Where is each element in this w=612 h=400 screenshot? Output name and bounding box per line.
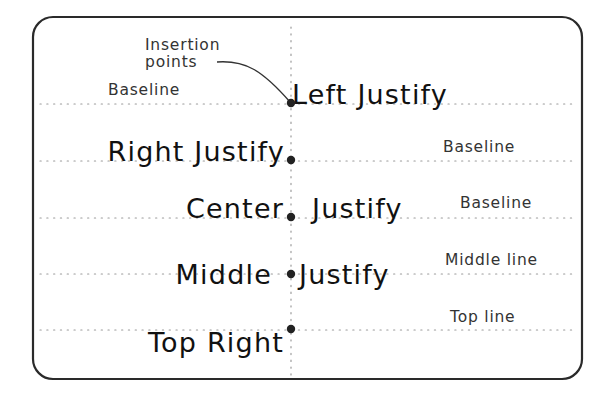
callout-label-line2: points	[145, 53, 197, 71]
sample-text-center-left: Center	[186, 193, 284, 224]
reference-label-top-line: Top line	[449, 308, 515, 326]
sample-text-middle-right: Justify	[297, 259, 390, 290]
insertion-point-center	[287, 213, 295, 221]
sample-text-left-justify: Left Justify	[292, 79, 448, 110]
sample-text-middle-left: Middle	[176, 259, 272, 290]
callout-label-line1: Insertion	[145, 36, 220, 54]
justification-diagram: Insertion points Baseline Left Justify R…	[0, 0, 612, 400]
insertion-point-top-right	[287, 325, 295, 333]
insertion-point-left-justify	[287, 99, 295, 107]
sample-text-top-right: Top Right	[147, 327, 284, 358]
sample-text-right-justify: Right Justify	[107, 136, 285, 167]
reference-label-baseline-3: Baseline	[460, 194, 532, 212]
reference-label-baseline-2: Baseline	[443, 138, 515, 156]
reference-label-middle-line: Middle line	[445, 251, 538, 269]
reference-label-baseline-1: Baseline	[108, 81, 180, 99]
sample-text-center-right: Justify	[310, 193, 403, 224]
insertion-point-middle	[287, 270, 295, 278]
insertion-point-right-justify	[287, 156, 295, 164]
